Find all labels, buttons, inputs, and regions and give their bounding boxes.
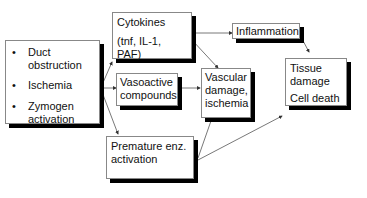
vasoactive-label: Vasoactive compounds (120, 76, 174, 102)
premature-label: Premature enz. activation (111, 140, 189, 166)
cytokines-box: Cytokines (tnf, IL-1, PAF) (112, 12, 192, 59)
cause-ischemia: Ischemia (10, 79, 95, 92)
inflammation-box: Inflammation (232, 23, 300, 39)
vascular-label: Vascular damage, ischemia (205, 71, 247, 111)
tissue-damage-box: Tissue damage Cell death (285, 58, 347, 106)
tissue-damage-label: Tissue damage (290, 62, 342, 88)
vasoactive-box: Vasoactive compounds (116, 73, 178, 106)
cause-zymogen-activation: Zymogen activation (10, 100, 95, 126)
inflammation-label: Inflammation (236, 25, 296, 38)
cell-death-label: Cell death (290, 92, 342, 105)
pathogenesis-diagram: Duct obstruction Ischemia Zymogen activa… (0, 0, 367, 198)
cause-duct-obstruction: Duct obstruction (10, 46, 95, 72)
premature-activation-box: Premature enz. activation (106, 136, 194, 179)
causes-box: Duct obstruction Ischemia Zymogen activa… (5, 40, 100, 124)
vascular-damage-box: Vascular damage, ischemia (201, 68, 251, 118)
cytokines-title: Cytokines (117, 16, 187, 29)
cytokines-list: (tnf, IL-1, PAF) (117, 35, 187, 61)
